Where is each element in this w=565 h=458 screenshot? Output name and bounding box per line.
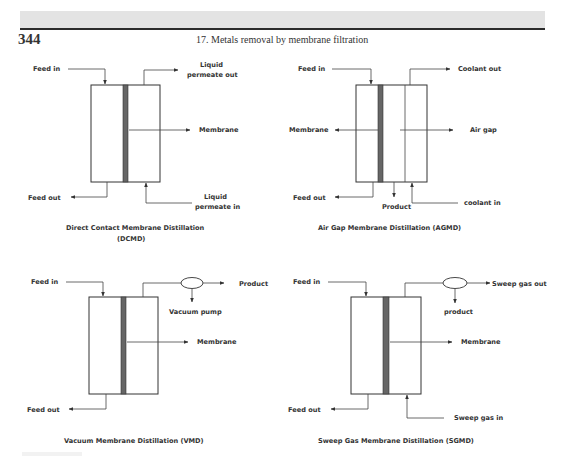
dcmd-diagram: Feed in Liquid permeate out Membrane Fee… bbox=[28, 61, 240, 243]
sgmd-caption: Sweep Gas Membrane Distillation (SGMD) bbox=[318, 437, 474, 445]
agmd-feed-in-label: Feed in bbox=[298, 65, 325, 73]
dcmd-caption-line2: (DCMD) bbox=[117, 235, 145, 243]
truncated-figure-caption bbox=[22, 452, 82, 456]
sgmd-feed-in-label: Feed in bbox=[293, 278, 320, 286]
sgmd-sweep-gas-out-label: Sweep gas out bbox=[492, 280, 547, 288]
vmd-membrane-label: Membrane bbox=[197, 338, 237, 346]
agmd-diagram: Feed in Coolant out Membrane Air gap Fee… bbox=[289, 65, 501, 232]
sgmd-sweep-gas-in-label: Sweep gas in bbox=[454, 414, 503, 422]
agmd-module-box bbox=[356, 85, 427, 182]
vmd-diagram: Feed in Product Vacuum pump Membrane Fee… bbox=[27, 278, 268, 446]
agmd-coolant-in-label: coolant in bbox=[464, 199, 501, 207]
vmd-feed-out-label: Feed out bbox=[27, 406, 60, 414]
sgmd-feed-out-label: Feed out bbox=[288, 406, 321, 414]
vmd-vacuum-pump-label: Vacuum pump bbox=[169, 308, 222, 316]
dcmd-permeate-in-label-2: permeate in bbox=[195, 203, 240, 211]
sgmd-diagram: Feed in Sweep gas out product Membrane F… bbox=[288, 278, 547, 446]
vmd-membrane bbox=[121, 297, 126, 394]
agmd-caption: Air Gap Membrane Distillation (AGMD) bbox=[318, 224, 461, 232]
sgmd-product-label: product bbox=[444, 308, 473, 316]
vmd-feed-in-label: Feed in bbox=[31, 278, 58, 286]
membrane-distillation-figure: Feed in Liquid permeate out Membrane Fee… bbox=[0, 0, 565, 458]
dcmd-caption-line1: Direct Contact Membrane Distillation bbox=[66, 224, 205, 232]
dcmd-permeate-out-label-2: permeate out bbox=[187, 71, 238, 79]
dcmd-feed-in-label: Feed in bbox=[33, 65, 60, 73]
vmd-pump-icon bbox=[181, 278, 203, 289]
agmd-coolant-out-label: Coolant out bbox=[458, 65, 501, 73]
agmd-membrane-label: Membrane bbox=[289, 126, 329, 134]
vmd-product-label: Product bbox=[239, 280, 268, 288]
dcmd-membrane bbox=[123, 85, 128, 182]
dcmd-feed-out-label: Feed out bbox=[28, 194, 61, 202]
agmd-air-gap-label: Air gap bbox=[470, 126, 497, 134]
sgmd-separator-icon bbox=[443, 278, 467, 289]
vmd-caption: Vacuum Membrane Distillation (VMD) bbox=[64, 437, 204, 445]
agmd-product-label: Product bbox=[382, 203, 411, 211]
agmd-membrane bbox=[378, 85, 383, 182]
dcmd-membrane-label: Membrane bbox=[199, 126, 239, 134]
dcmd-permeate-in-label-1: Liquid bbox=[204, 193, 227, 201]
agmd-feed-out-label: Feed out bbox=[293, 194, 326, 202]
dcmd-permeate-out-label-1: Liquid bbox=[200, 61, 223, 69]
sgmd-membrane bbox=[383, 297, 389, 394]
sgmd-membrane-label: Membrane bbox=[461, 338, 501, 346]
